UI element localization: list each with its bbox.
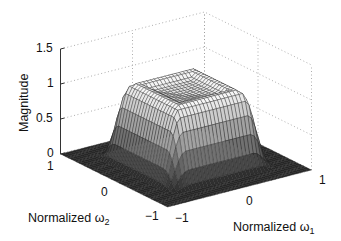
y-tick-1: 1 <box>47 160 54 172</box>
x-tick-0: 0 <box>246 195 253 207</box>
z-tick-1: 1 <box>47 77 54 89</box>
z-tick-0-5: 0.5 <box>36 112 53 124</box>
y-axis-label: Normalized ω2 <box>28 211 109 227</box>
z-tick-1-5: 1.5 <box>36 42 53 54</box>
y-tick-neg1: −1 <box>145 210 159 222</box>
x-axis-label-text: Normalized ω <box>233 220 309 234</box>
z-axis-label: Magnitude <box>17 74 31 132</box>
x-tick-1: 1 <box>319 174 326 186</box>
y-axis-label-subscript: 2 <box>104 217 109 227</box>
x-tick-neg1: −1 <box>175 212 189 224</box>
x-axis-label-subscript: 1 <box>309 226 314 236</box>
y-tick-0: 0 <box>101 186 108 198</box>
y-axis-label-text: Normalized ω <box>28 211 104 225</box>
surface-mesh <box>61 69 312 207</box>
x-axis-label: Normalized ω1 <box>233 220 314 236</box>
axes-lines <box>61 48 65 154</box>
z-tick-0: 0 <box>47 147 54 159</box>
